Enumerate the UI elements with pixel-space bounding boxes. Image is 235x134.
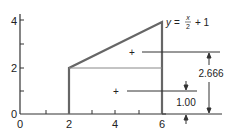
svg-text:=: = (174, 17, 180, 28)
equation-label: y = x 2 + 1 (165, 14, 210, 30)
lower-centroid-marker: + (113, 86, 119, 97)
x-tick-label: 0 (17, 118, 23, 130)
y-tick-label: 4 (11, 15, 17, 27)
lower-dimension-label: 1.00 (176, 97, 196, 108)
svg-text:2: 2 (186, 23, 190, 30)
x-tick-label: 6 (159, 118, 165, 130)
svg-text:x: x (185, 14, 190, 21)
svg-text:+ 1: + 1 (195, 17, 210, 28)
y-tick-label: 0 (11, 108, 17, 120)
x-tick-label: 4 (112, 118, 118, 130)
upper-centroid-marker: + (129, 47, 135, 58)
svg-text:y: y (165, 17, 172, 28)
x-tick-label: 2 (66, 118, 72, 130)
y-tick-label: 2 (11, 62, 17, 74)
composite-area-diagram: 0 2 4 6 0 2 4 y = x 2 + 1 + + 2.666 1.00 (0, 0, 235, 134)
upper-dimension-label: 2.666 (198, 68, 223, 79)
upper-dimension-arrow (207, 53, 211, 113)
